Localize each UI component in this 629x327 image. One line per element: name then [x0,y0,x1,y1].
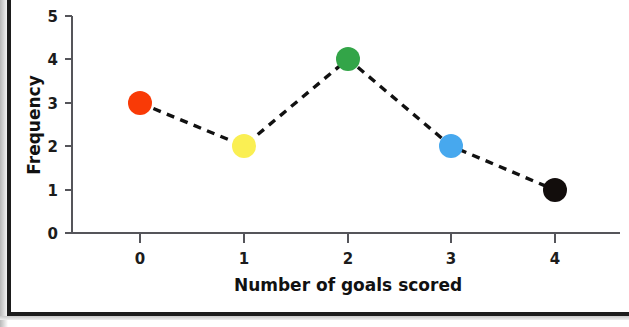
y-tick-label-5: 5 [48,8,58,26]
x-tick-label-1: 1 [239,250,249,268]
data-point-3[interactable] [439,134,463,158]
data-point-markers [128,47,567,202]
scanned-page: 5 4 3 2 1 0 Frequency 0 1 2 [0,0,629,327]
y-tick-label-3: 3 [48,95,58,113]
y-axis-tick-labels: 5 4 3 2 1 0 [48,8,58,243]
y-tick-label-4: 4 [48,51,58,69]
x-tick-label-4: 4 [550,250,560,268]
x-tick-label-2: 2 [343,250,353,268]
y-tick-label-2: 2 [48,138,58,156]
x-axis-tick-labels: 0 1 2 3 4 [135,250,560,268]
chart-plot-area: 5 4 3 2 1 0 Frequency 0 1 2 [0,0,629,327]
x-tick-label-0: 0 [135,250,145,268]
x-axis-title: Number of goals scored [234,275,462,295]
data-point-1[interactable] [232,134,256,158]
data-point-4[interactable] [543,178,567,202]
data-point-2[interactable] [336,47,360,71]
y-tick-label-1: 1 [48,182,58,200]
data-point-0[interactable] [128,91,152,115]
line-chart: 5 4 3 2 1 0 Frequency 0 1 2 [0,0,629,327]
x-tick-label-3: 3 [446,250,456,268]
y-axis-title: Frequency [24,75,44,175]
y-tick-label-0: 0 [48,225,58,243]
y-axis-ticks [65,16,72,233]
series-line [140,59,555,190]
x-axis-ticks [140,233,555,243]
